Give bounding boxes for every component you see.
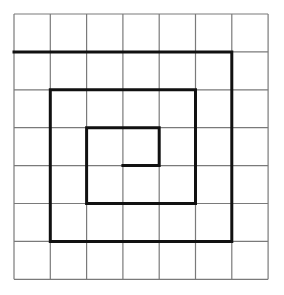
grid-lines — [14, 14, 268, 279]
spiral-grid-diagram — [0, 0, 284, 295]
grid-svg — [0, 0, 284, 295]
